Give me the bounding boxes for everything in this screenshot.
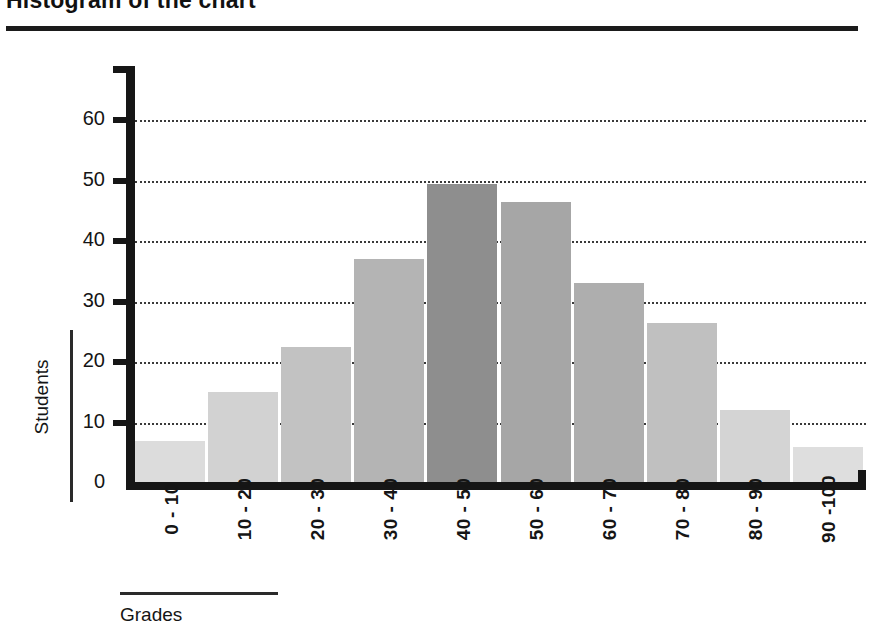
- bar-series: [135, 66, 866, 483]
- x-axis-tick-label: 50 - 60: [526, 449, 548, 569]
- y-axis-spine: [126, 66, 135, 489]
- x-axis-title: Grades: [120, 604, 182, 626]
- x-axis-tick-label: 30 - 40: [380, 449, 402, 569]
- x-axis-tick-label: 90 -100: [818, 449, 840, 569]
- bar[interactable]: [427, 184, 497, 483]
- chart-canvas: 0102030405060 0 - 1010 - 2020 - 3030 - 4…: [0, 0, 893, 641]
- y-axis-tick-label: 50: [61, 168, 105, 191]
- x-axis-tick-label: 80 - 90: [745, 449, 767, 569]
- x-axis-tick-label: 20 - 30: [307, 449, 329, 569]
- x-axis-title-group: Grades: [120, 592, 420, 636]
- x-axis-tick-label: 70 - 80: [672, 449, 694, 569]
- y-axis-tick-label: 40: [61, 228, 105, 251]
- x-axis-right-cap: [858, 470, 866, 490]
- y-axis-tick-labels: 0102030405060: [55, 0, 105, 641]
- y-axis-title: Students: [31, 337, 53, 457]
- y-axis-top-cap: [113, 66, 135, 73]
- y-axis-tick-label: 60: [61, 107, 105, 130]
- x-axis-tick-label: 0 - 10: [161, 449, 183, 569]
- bar[interactable]: [501, 202, 571, 483]
- x-axis-tick-label: 60 - 70: [599, 449, 621, 569]
- x-axis-tick-label: 10 - 20: [234, 449, 256, 569]
- y-axis-tick-label: 30: [61, 289, 105, 312]
- y-axis-title-group: Students: [18, 330, 78, 505]
- y-axis-title-rule: [70, 330, 73, 502]
- x-axis-title-rule: [120, 592, 278, 595]
- x-axis-tick-label: 40 - 50: [453, 449, 475, 569]
